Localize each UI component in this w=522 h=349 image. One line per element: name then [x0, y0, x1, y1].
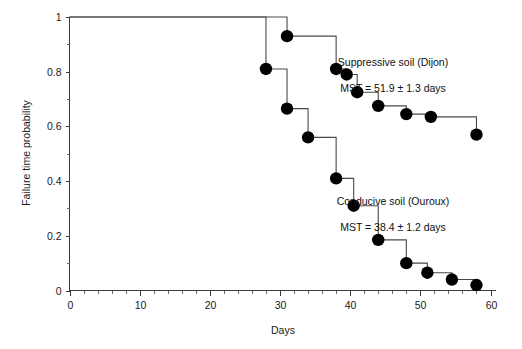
annotation-suppressive-title: Suppressive soil (Dijon): [338, 56, 448, 68]
event-marker: [372, 234, 384, 246]
x-tick-label: 40: [345, 299, 357, 311]
x-tick-label: 10: [135, 299, 147, 311]
x-tick-label: 0: [68, 299, 74, 311]
x-tick-label: 60: [486, 299, 498, 311]
event-marker: [372, 100, 384, 112]
y-tick-label: 0.6: [47, 120, 62, 132]
event-marker: [470, 279, 482, 291]
event-marker: [400, 257, 412, 269]
annotation-suppressive-mst: MST = 51.9 ± 1.3 days: [340, 82, 446, 94]
annotation-conducive-mst: MST = 38.4 ± 1.2 days: [340, 221, 446, 233]
y-axis-title: Failure time probability: [20, 99, 32, 205]
event-marker: [340, 68, 352, 80]
event-marker: [281, 102, 293, 114]
y-tick-label: 0.2: [47, 230, 62, 242]
x-tick-label: 30: [275, 299, 287, 311]
event-marker: [330, 172, 342, 184]
x-tick-label: 50: [415, 299, 427, 311]
event-marker: [421, 267, 433, 279]
chart-canvas: 00.20.40.60.81 Failure time probability …: [0, 0, 522, 349]
y-tick-label: 0: [56, 285, 62, 297]
event-marker: [281, 30, 293, 42]
y-tick-label: 0.8: [47, 66, 62, 78]
y-tick-label: 1: [56, 11, 62, 23]
x-tick-label: 20: [205, 299, 217, 311]
event-marker: [470, 128, 482, 140]
y-tick-label: 0.4: [47, 175, 62, 187]
event-marker: [260, 63, 272, 75]
chart-background: [0, 0, 522, 349]
x-axis-title: Days: [271, 324, 295, 336]
annotation-conducive-title: Conducive soil (Ouroux): [337, 195, 450, 207]
survival-chart-figure: 00.20.40.60.81 Failure time probability …: [0, 0, 522, 349]
event-marker: [302, 131, 314, 143]
event-marker: [425, 111, 437, 123]
event-marker: [446, 273, 458, 285]
event-marker: [400, 108, 412, 120]
